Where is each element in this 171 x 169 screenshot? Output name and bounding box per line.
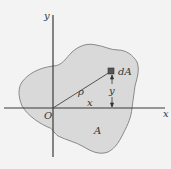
y-axis-label: y — [43, 10, 50, 21]
region-a-label: A — [93, 125, 101, 136]
origin-label: O — [44, 110, 52, 121]
y-distance-label: y — [108, 85, 115, 96]
x-axis-label: x — [163, 108, 169, 119]
x-distance-label: x — [87, 97, 93, 108]
area-moment-diagram: y x O dA ρ y x A — [0, 0, 171, 169]
rho-label: ρ — [77, 86, 84, 97]
da-label: dA — [118, 66, 132, 77]
label-layer: y x O dA ρ y x A — [0, 0, 171, 169]
